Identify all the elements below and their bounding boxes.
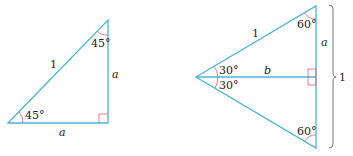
top-angle-label: 45° [91, 37, 111, 50]
lower-left-angle-label: 30° [219, 79, 239, 92]
vertical-leg-label: a [112, 68, 119, 81]
right-triangle: 30° 30° 60° 60° 1 b a 1 [196, 5, 346, 148]
upper-vertical-label: a [321, 36, 328, 49]
upper-left-angle-label: 30° [219, 64, 239, 77]
left-triangle: 45° 45° 1 a a [8, 20, 119, 139]
top-angle-label: 60° [297, 18, 317, 31]
horizontal-leg-label: a [59, 126, 66, 139]
special-triangles-diagram: 45° 45° 1 a a 30° 30° 60° 60° 1 b a 1 [0, 0, 353, 156]
brace-label: 1 [339, 71, 346, 84]
right-angle-mark [99, 114, 108, 123]
hypotenuse-label: 1 [50, 58, 57, 71]
bottom-angle-label: 45° [25, 109, 45, 122]
bottom-angle-arc [19, 112, 23, 123]
brace [329, 5, 336, 148]
bottom-angle-label: 60° [297, 125, 317, 138]
triangle-45-45-90 [8, 20, 108, 123]
bisector-label: b [264, 64, 271, 77]
upper-side-label: 1 [252, 27, 259, 40]
top-angle-arc [97, 31, 108, 35]
